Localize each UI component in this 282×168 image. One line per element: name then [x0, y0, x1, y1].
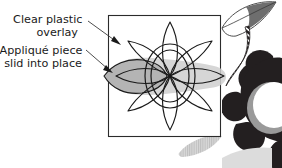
callout-line-1: Clear plastic: [13, 13, 82, 26]
callout-line-1: Appliqué piece: [0, 44, 83, 57]
flower-center-inner: [151, 50, 189, 102]
callout-label-applique-piece: Appliqué piece slid into place: [0, 44, 86, 70]
applique-diagram: Clear plastic overlay Appliqué piece sli…: [0, 0, 282, 168]
callout-line-2: overlay: [36, 26, 78, 39]
diagram-canvas: Clear plastic overlay Appliqué piece sli…: [0, 0, 282, 168]
callout-line-2: slid into place: [4, 57, 82, 70]
